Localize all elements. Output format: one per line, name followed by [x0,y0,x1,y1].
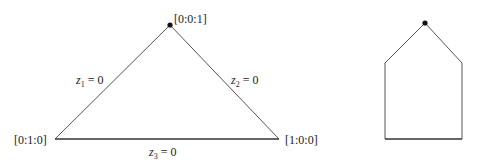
pentagon-apex-dot-icon [422,20,427,25]
edge-label-z2: z2 = 0 [231,74,258,89]
vertex-label-left: [0:1:0] [14,134,47,146]
pentagon-outline [385,23,462,139]
vertex-label-right: [1:0:0] [285,134,318,146]
edge-label-z1: z1 = 0 [76,74,103,89]
projective-plane-diagram: [0:0:1] [0:1:0] [1:0:0] z1 = 0 z2 = 0 z3… [0,0,477,164]
vertex-dot-top-icon [167,22,172,27]
pentagon [385,20,462,139]
triangle-edge-left [55,25,170,139]
triangle-edge-right [170,25,279,139]
vertex-label-top: [0:0:1] [174,13,207,25]
edge-label-z3: z3 = 0 [149,146,176,161]
